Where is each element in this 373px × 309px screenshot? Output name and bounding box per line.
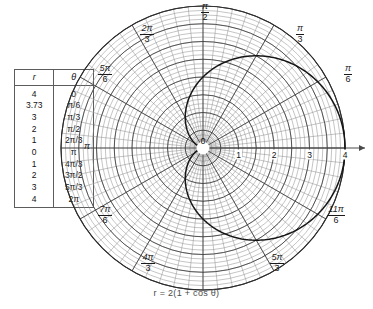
cell-r: 4	[15, 86, 54, 100]
cell-r: 0	[15, 146, 54, 158]
radial-tick-label: 4	[343, 150, 348, 160]
angle-label-two-pi-over-3: 2π 3	[136, 24, 158, 44]
cell-r: 3	[15, 181, 54, 193]
angle-label-four-pi-over-3: 4π 3	[137, 253, 159, 273]
angle-label-pi-over-2: π 2	[195, 2, 215, 22]
cell-r: 2	[15, 123, 54, 135]
angle-label-eleven-pi-over-6: 11π 6	[322, 205, 350, 225]
angle-label-seven-pi-over-6: 7π 6	[94, 205, 116, 225]
cell-r: 3.73	[15, 100, 54, 112]
polar-grid-plot: 0 1234	[60, 0, 373, 294]
polar-figure: r θ 403.73π/63π/32π/212π/30π14π/323π/235…	[0, 0, 373, 309]
polar-grid-svg: 0 1234	[60, 0, 373, 294]
cell-r: 1	[15, 158, 54, 170]
angle-label-pi-over-3: π 3	[290, 24, 310, 44]
cell-r: 2	[15, 170, 54, 182]
cell-r: 3	[15, 111, 54, 123]
column-header-r: r	[15, 70, 54, 86]
cell-r: 4	[15, 193, 54, 208]
radial-tick-label: 2	[272, 150, 277, 160]
radial-tick-label: 1	[236, 150, 241, 160]
pole-label: 0	[200, 136, 205, 146]
angle-label-five-pi-over-6: 5π 6	[94, 64, 116, 84]
angle-label-pi: π	[82, 142, 92, 151]
figure-caption: r = 2(1 + cos θ)	[0, 288, 373, 298]
cell-r: 1	[15, 135, 54, 147]
angle-label-pi-over-6: π 6	[338, 64, 358, 84]
radial-tick-label: 3	[307, 150, 312, 160]
angle-label-five-pi-over-3: 5π 3	[266, 253, 288, 273]
